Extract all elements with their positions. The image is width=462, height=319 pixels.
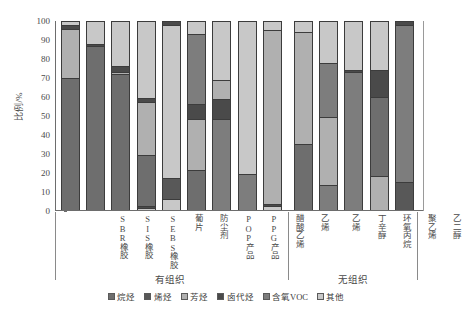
legend-label: 其他 — [326, 290, 344, 302]
bar-segment[interactable] — [294, 21, 313, 32]
legend-item[interactable]: 烯烃 — [144, 290, 172, 302]
bar-segment[interactable] — [212, 21, 231, 80]
legend-swatch-icon — [108, 293, 115, 300]
y-tick-label: 50 — [16, 111, 50, 121]
legend-label: 烷烃 — [117, 290, 135, 302]
group-label: 有组织 — [60, 272, 281, 286]
bar-segment[interactable] — [319, 63, 338, 118]
bar-column[interactable] — [137, 21, 156, 210]
bar-segment[interactable] — [294, 32, 313, 144]
y-tick-label: 100 — [16, 16, 50, 26]
bar-segment[interactable] — [187, 34, 206, 104]
legend-item[interactable]: 烷烃 — [108, 290, 136, 302]
group-separator — [288, 212, 289, 280]
legend-swatch-icon — [263, 293, 270, 300]
plot-area — [55, 21, 424, 211]
y-tick-label: 40 — [16, 130, 50, 140]
bar-segment[interactable] — [238, 21, 257, 174]
bar-segment[interactable] — [137, 155, 156, 206]
y-tick-label: 0 — [16, 206, 50, 216]
bar-segment[interactable] — [137, 21, 156, 99]
legend-swatch-icon — [144, 293, 151, 300]
bar-segment[interactable] — [319, 117, 338, 185]
group-label: 无组织 — [293, 272, 413, 286]
bar-segment[interactable] — [61, 78, 80, 210]
y-axis-ticks: 0102030405060708090100 — [12, 0, 50, 319]
bar-segment[interactable] — [212, 119, 231, 210]
bar-segment[interactable] — [263, 30, 282, 204]
legend-label: 烯烃 — [154, 290, 172, 302]
legend-item[interactable]: 卤代烃 — [217, 290, 254, 302]
bar-segment[interactable] — [263, 21, 282, 30]
bar-segment[interactable] — [370, 70, 389, 96]
bar-segment[interactable] — [187, 21, 206, 34]
bar-column[interactable] — [294, 21, 313, 210]
bar-column[interactable] — [187, 21, 206, 210]
bar-segment[interactable] — [344, 21, 363, 70]
y-tick-label: 20 — [16, 168, 50, 178]
y-tick-label: 80 — [16, 54, 50, 64]
bar-column[interactable] — [319, 21, 338, 210]
bar-column[interactable] — [162, 21, 181, 210]
bar-segment[interactable] — [395, 25, 414, 182]
bar-segment[interactable] — [86, 21, 105, 44]
legend-label: 芳烃 — [190, 290, 208, 302]
bar-segment[interactable] — [162, 178, 181, 199]
y-tick-label: 90 — [16, 35, 50, 45]
legend-swatch-icon — [181, 293, 188, 300]
legend-item[interactable]: 含氧VOC — [263, 290, 308, 302]
y-tick-label: 70 — [16, 73, 50, 83]
legend-label: 卤代烃 — [227, 290, 254, 302]
bar-segment[interactable] — [212, 99, 231, 120]
y-tick-mark — [64, 211, 67, 212]
y-tick-label: 30 — [16, 149, 50, 159]
bar-segment[interactable] — [137, 102, 156, 155]
group-separator — [55, 212, 56, 280]
group-separator — [417, 212, 418, 280]
bar-column[interactable] — [344, 21, 363, 210]
bar-segment[interactable] — [344, 72, 363, 210]
bar-segment[interactable] — [137, 208, 156, 210]
bar-column[interactable] — [263, 21, 282, 210]
bar-column[interactable] — [238, 21, 257, 210]
bar-column[interactable] — [395, 21, 414, 210]
bar-segment[interactable] — [162, 199, 181, 210]
bar-column[interactable] — [111, 21, 130, 210]
bar-segment[interactable] — [212, 80, 231, 99]
legend-item[interactable]: 其他 — [317, 290, 345, 302]
bar-column[interactable] — [86, 21, 105, 210]
bar-segment[interactable] — [395, 182, 414, 210]
plot-right-border — [423, 21, 424, 211]
bar-segment[interactable] — [187, 104, 206, 119]
legend-label: 含氧VOC — [272, 290, 308, 302]
bar-segment[interactable] — [111, 74, 130, 210]
y-tick-label: 10 — [16, 187, 50, 197]
bar-segment[interactable] — [187, 119, 206, 170]
bar-segment[interactable] — [111, 21, 130, 66]
bar-segment[interactable] — [187, 170, 206, 210]
bar-segment[interactable] — [61, 29, 80, 78]
legend-item[interactable]: 芳烃 — [181, 290, 209, 302]
bar-segment[interactable] — [370, 176, 389, 210]
x-tick-label: 乙二醇 — [398, 214, 462, 272]
bar-segment[interactable] — [238, 174, 257, 210]
y-tick-label: 60 — [16, 92, 50, 102]
bar-segment[interactable] — [370, 21, 389, 70]
bar-column[interactable] — [370, 21, 389, 210]
legend-swatch-icon — [317, 293, 324, 300]
bar-column[interactable] — [212, 21, 231, 210]
legend-swatch-icon — [217, 293, 224, 300]
bar-segment[interactable] — [370, 97, 389, 176]
bar-segment[interactable] — [294, 144, 313, 210]
bar-segment[interactable] — [319, 21, 338, 63]
chart-legend: 烷烃烯烃芳烃卤代烃含氧VOC其他 — [0, 290, 452, 302]
bar-segment[interactable] — [162, 25, 181, 178]
bar-column[interactable] — [61, 21, 80, 210]
bar-segment[interactable] — [319, 185, 338, 210]
bar-segment[interactable] — [86, 46, 105, 210]
bar-segment[interactable] — [263, 206, 282, 210]
